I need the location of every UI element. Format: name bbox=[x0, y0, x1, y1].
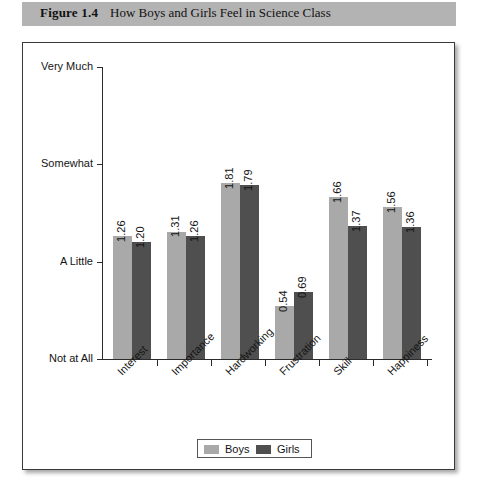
bar-value-label: 1.81 bbox=[223, 167, 235, 189]
bar-value-label: 1.37 bbox=[350, 210, 362, 232]
bar-importance-boys bbox=[167, 232, 186, 360]
y-axis-tick bbox=[97, 164, 103, 165]
x-axis-line bbox=[102, 359, 432, 360]
y-axis-tick bbox=[97, 262, 103, 263]
bar-value-label: 1.36 bbox=[404, 211, 416, 233]
figure-title-band: Figure 1.4How Boys and Girls Feel in Sci… bbox=[22, 2, 456, 26]
bar-value-label: 1.20 bbox=[134, 226, 146, 248]
bar-value-label: 1.56 bbox=[385, 191, 397, 213]
bar-value-label: 1.66 bbox=[331, 182, 343, 204]
x-axis-tick bbox=[211, 360, 212, 366]
x-axis-tick bbox=[157, 360, 158, 366]
y-axis-tick bbox=[97, 67, 103, 68]
bar-value-label: 1.26 bbox=[188, 221, 200, 243]
chart-legend: Boys Girls bbox=[197, 439, 312, 458]
legend-swatch-boys bbox=[204, 445, 219, 454]
bar-interest-girls bbox=[132, 242, 151, 359]
y-axis-tick-label: Very Much bbox=[41, 60, 93, 72]
legend-entry-girls: Girls bbox=[256, 442, 300, 456]
bar-hardworking-boys bbox=[221, 183, 240, 359]
legend-label-girls: Girls bbox=[277, 443, 300, 455]
x-axis-tick bbox=[319, 360, 320, 366]
y-axis-tick-label: Somewhat bbox=[41, 157, 93, 169]
legend-swatch-girls bbox=[256, 445, 271, 454]
bar-frustration-boys bbox=[275, 306, 294, 359]
x-axis-tick bbox=[265, 360, 266, 366]
legend-label-boys: Boys bbox=[225, 443, 249, 455]
figure-number: Figure 1.4 bbox=[40, 5, 98, 20]
figure-title-text: Figure 1.4How Boys and Girls Feel in Sci… bbox=[40, 5, 331, 21]
chart-frame: Not at AllA LittleSomewhatVery Much 1.26… bbox=[22, 42, 455, 470]
bar-value-label: 0.54 bbox=[277, 291, 289, 313]
y-axis-tick bbox=[97, 359, 103, 360]
bar-skill-girls bbox=[348, 226, 367, 359]
bar-value-label: 1.31 bbox=[169, 216, 181, 238]
x-axis-tick bbox=[427, 360, 428, 366]
bar-value-label: 1.79 bbox=[242, 169, 254, 191]
legend-entry-boys: Boys bbox=[204, 442, 249, 456]
bar-interest-boys bbox=[113, 236, 132, 359]
bar-hardworking-girls bbox=[240, 185, 259, 359]
bar-skill-boys bbox=[329, 197, 348, 359]
plot-area: Not at AllA LittleSomewhatVery Much 1.26… bbox=[23, 43, 456, 471]
bar-value-label: 0.69 bbox=[296, 276, 308, 298]
x-axis-tick bbox=[373, 360, 374, 366]
bar-happiness-boys bbox=[383, 207, 402, 359]
y-axis-tick-label: Not at All bbox=[49, 352, 93, 364]
figure-caption: How Boys and Girls Feel in Science Class bbox=[110, 5, 331, 20]
bar-value-label: 1.26 bbox=[115, 221, 127, 243]
y-axis-tick-label: A Little bbox=[60, 255, 93, 267]
y-axis-line bbox=[102, 67, 103, 360]
